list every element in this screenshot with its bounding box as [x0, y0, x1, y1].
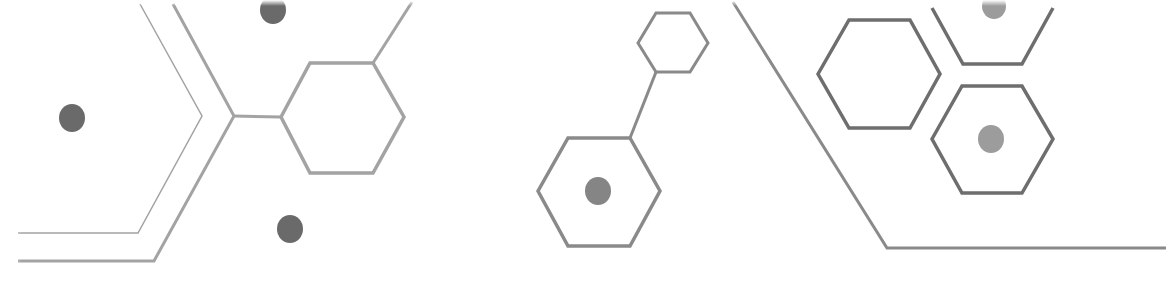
connector-hex-top-right — [373, 2, 412, 63]
dot-left — [59, 104, 85, 132]
connector-left-hex — [234, 116, 281, 117]
dots-layer — [59, 0, 1006, 243]
hex-left — [281, 63, 404, 173]
dot-in-hex-right-lower — [978, 125, 1004, 153]
top-fade-overlay — [0, 0, 1166, 6]
connector-small-hex-to-large-hex — [630, 72, 656, 138]
hex-right-upper-left — [818, 20, 940, 128]
hexagon-pattern-graphic — [0, 0, 1166, 291]
dot-in-hex-bottom-center — [585, 177, 611, 205]
dot-bottom — [277, 215, 303, 243]
thin-chevron-line — [18, 4, 202, 233]
hex-small-top — [638, 13, 708, 72]
hexagons-layer — [281, 8, 1053, 246]
thick-chevron-line — [18, 4, 234, 261]
left-fade-overlay — [0, 0, 22, 291]
